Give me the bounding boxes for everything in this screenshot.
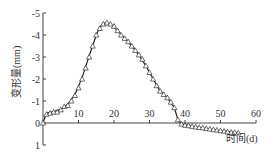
data-point-triangle (97, 26, 102, 31)
data-point-triangle (154, 83, 159, 88)
x-tick-label: 30 (145, 108, 155, 119)
axes: -5-4-3-2-101102030405060 (32, 8, 261, 151)
measured-points (40, 20, 240, 135)
data-point-triangle (69, 98, 74, 103)
y-tick-label: -4 (32, 30, 40, 41)
data-point-triangle (147, 70, 152, 75)
data-point-triangle (87, 54, 92, 59)
data-point-triangle (150, 76, 155, 81)
data-point-triangle (94, 32, 99, 37)
fitted-curve (43, 23, 238, 133)
x-tick-label: 20 (109, 108, 119, 119)
y-tick-label: 0 (35, 118, 40, 129)
x-axis-label: 时间(d) (226, 132, 258, 145)
data-point-triangle (90, 43, 95, 48)
x-tick-label: 60 (251, 108, 261, 119)
data-point-triangle (72, 93, 77, 98)
y-tick-label: -5 (32, 8, 40, 19)
x-tick-label: 50 (216, 108, 226, 119)
y-tick-label: -3 (32, 52, 40, 63)
data-point-triangle (76, 85, 81, 90)
y-tick-label: 1 (35, 140, 40, 151)
data-point-triangle (83, 65, 88, 70)
data-point-triangle (79, 76, 84, 81)
y-tick-label: -1 (32, 96, 40, 107)
y-tick-label: -2 (32, 74, 40, 85)
y-axis-label: 变形量(mm) (10, 46, 23, 98)
x-tick-label: 10 (74, 108, 84, 119)
deformation-time-chart: -5-4-3-2-101102030405060 时间(d) 变形量(mm) (0, 0, 278, 158)
x-tick-label: 40 (180, 108, 190, 119)
